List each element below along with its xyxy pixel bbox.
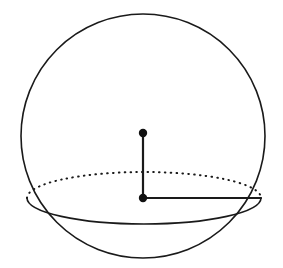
sphere-diagram-canvas xyxy=(0,0,283,268)
cross-section-center-point xyxy=(139,194,147,202)
sphere-center-point xyxy=(139,129,147,137)
sphere-diagram-svg xyxy=(0,0,283,268)
